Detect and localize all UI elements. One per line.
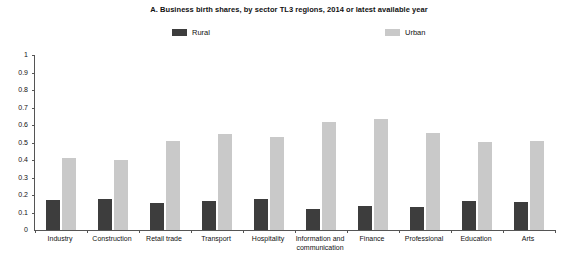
bar-rural (46, 200, 60, 230)
y-tick-mark (32, 195, 35, 196)
bar-rural (514, 202, 528, 230)
x-axis: IndustryConstructionRetail tradeTranspor… (34, 234, 554, 268)
bar-group (139, 55, 191, 230)
y-tick-label: 0.4 (0, 156, 28, 164)
x-tick-mark (87, 230, 88, 233)
y-tick-mark (32, 213, 35, 214)
x-tick-label: Arts (502, 234, 554, 243)
bar-group (347, 55, 399, 230)
bar-urban (166, 141, 180, 230)
y-tick-label: 0.9 (0, 69, 28, 77)
bar-group (191, 55, 243, 230)
bar-group (87, 55, 139, 230)
x-tick-mark (191, 230, 192, 233)
y-tick-label: 0.2 (0, 191, 28, 199)
bar-rural (254, 199, 268, 230)
x-tick-label: Professional (398, 234, 450, 243)
y-tick-label: 0.8 (0, 86, 28, 94)
x-tick-mark (243, 230, 244, 233)
y-tick-label: 1 (0, 51, 28, 59)
bars-layer (35, 55, 555, 230)
bar-urban (374, 119, 388, 230)
y-tick-mark (32, 90, 35, 91)
bar-rural (306, 209, 320, 230)
plot-area (34, 55, 555, 231)
bar-urban (62, 158, 76, 230)
y-tick-mark (32, 125, 35, 126)
bar-rural (462, 201, 476, 230)
x-tick-mark (139, 230, 140, 233)
x-tick-label: Information and communication (294, 234, 346, 252)
bar-rural (202, 201, 216, 230)
y-tick-mark (32, 55, 35, 56)
chart-legend: Rural Urban (0, 28, 578, 42)
bar-group (243, 55, 295, 230)
bar-rural (358, 206, 372, 231)
y-tick-label: 0.7 (0, 104, 28, 112)
bar-group (503, 55, 555, 230)
legend-swatch-rural (172, 29, 187, 36)
bar-group (451, 55, 503, 230)
bar-urban (270, 137, 284, 230)
x-tick-mark (503, 230, 504, 233)
y-tick-label: 0.6 (0, 121, 28, 129)
bar-urban (426, 133, 440, 230)
bar-urban (478, 142, 492, 230)
y-tick-mark (32, 73, 35, 74)
bar-group (35, 55, 87, 230)
bar-urban (114, 160, 128, 230)
bar-rural (98, 199, 112, 231)
legend-swatch-urban (385, 29, 400, 36)
x-tick-label: Industry (34, 234, 86, 243)
bar-rural (410, 207, 424, 230)
bar-urban (530, 141, 544, 230)
x-tick-label: Construction (86, 234, 138, 243)
x-tick-label: Retail trade (138, 234, 190, 243)
y-tick-label: 0.5 (0, 139, 28, 147)
x-tick-label: Transport (190, 234, 242, 243)
x-tick-mark (347, 230, 348, 233)
chart-title: A. Business birth shares, by sector TL3 … (0, 5, 578, 14)
legend-label-urban: Urban (405, 28, 425, 37)
bar-group (295, 55, 347, 230)
bar-urban (218, 134, 232, 230)
y-axis: 00.10.20.30.40.50.60.70.80.91 (0, 50, 28, 235)
x-tick-mark (555, 230, 556, 233)
y-tick-mark (32, 108, 35, 109)
y-tick-label: 0.3 (0, 174, 28, 182)
x-tick-label: Finance (346, 234, 398, 243)
y-tick-label: 0.1 (0, 209, 28, 217)
y-tick-mark (32, 178, 35, 179)
y-tick-mark (32, 143, 35, 144)
x-tick-mark (295, 230, 296, 233)
chart-figure: A. Business birth shares, by sector TL3 … (0, 0, 578, 272)
x-tick-mark (35, 230, 36, 233)
y-tick-mark (32, 160, 35, 161)
x-tick-label: Education (450, 234, 502, 243)
y-tick-label: 0 (0, 226, 28, 234)
legend-item-rural: Rural (172, 28, 210, 37)
x-tick-mark (399, 230, 400, 233)
legend-label-rural: Rural (192, 28, 210, 37)
legend-item-urban: Urban (385, 28, 425, 37)
bar-group (399, 55, 451, 230)
x-tick-mark (451, 230, 452, 233)
bar-rural (150, 203, 164, 230)
x-tick-label: Hospitality (242, 234, 294, 243)
bar-urban (322, 122, 336, 230)
